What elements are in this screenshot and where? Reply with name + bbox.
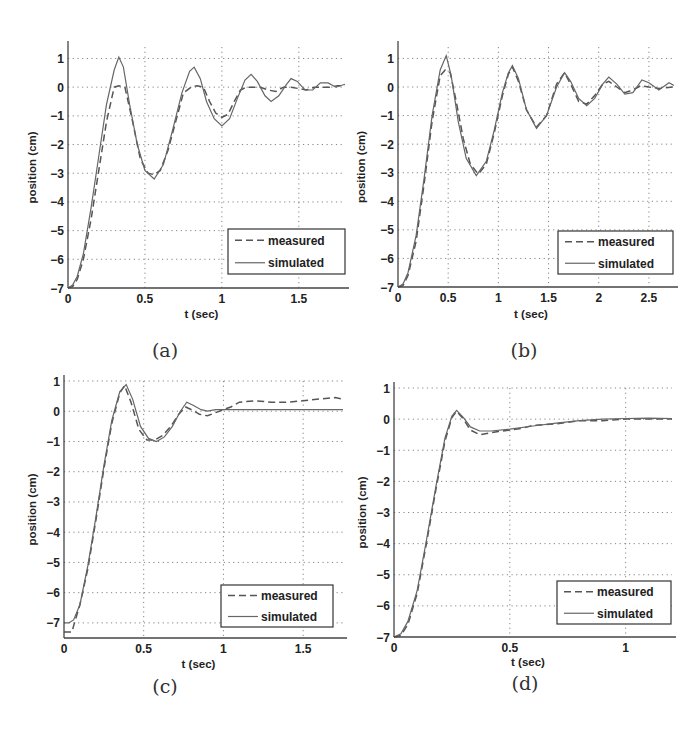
y-tick-label: 1: [57, 52, 64, 66]
x-tick-label: 1.5: [290, 292, 307, 306]
y-tick-label: −7: [46, 616, 60, 630]
legend-entry-label: simulated: [261, 610, 317, 624]
y-tick-label: −3: [380, 166, 394, 180]
y-tick-label: −1: [376, 444, 390, 458]
legend-entry-label: simulated: [598, 257, 654, 271]
y-axis-label: position (cm): [26, 473, 38, 545]
y-tick-label: −5: [376, 568, 390, 582]
y-tick-label: −4: [376, 537, 390, 551]
y-tick-label: −5: [46, 556, 60, 570]
y-tick-label: −2: [376, 475, 390, 489]
x-tick-label: 0.5: [135, 642, 152, 656]
y-tick-label: 0: [57, 81, 64, 95]
legend-entry-label: measured: [597, 585, 654, 599]
y-tick-label: −7: [380, 281, 394, 295]
legend: measuredsimulated: [558, 231, 673, 274]
panel-caption: (a): [152, 339, 178, 361]
x-tick-label: 0.5: [440, 291, 457, 305]
y-tick-label: −3: [46, 495, 60, 509]
panel-d: 10−1−2−3−4−5−6−700.51t (sec)position (cm…: [356, 382, 676, 695]
panel-caption: (d): [512, 672, 539, 694]
x-tick-label: 1: [622, 641, 629, 655]
y-tick-label: −3: [50, 167, 64, 181]
y-tick-label: −1: [380, 109, 394, 123]
legend-entry-label: simulated: [597, 607, 653, 621]
x-tick-label: 0.5: [137, 292, 154, 306]
y-tick-label: −7: [50, 282, 64, 296]
legend-entry-label: measured: [598, 235, 655, 249]
panel-a: 10−1−2−3−4−5−6−700.511.5t (sec)position …: [26, 41, 349, 361]
legend: measuredsimulated: [221, 585, 333, 627]
y-tick-label: −5: [50, 224, 64, 238]
x-tick-label: 1.5: [540, 291, 557, 305]
x-tick-label: 0: [61, 642, 68, 656]
y-tick-label: 1: [383, 382, 390, 396]
y-tick-label: −1: [50, 109, 64, 123]
x-tick-label: 0.5: [501, 641, 518, 655]
y-tick-label: 0: [387, 81, 394, 95]
y-tick-label: −2: [380, 138, 394, 152]
y-tick-label: −2: [50, 138, 64, 152]
y-tick-label: 1: [53, 375, 60, 389]
y-tick-label: −6: [376, 599, 390, 613]
y-tick-label: −4: [380, 195, 394, 209]
x-tick-label: 0: [395, 291, 402, 305]
legend: measuredsimulated: [557, 581, 671, 624]
y-tick-label: −6: [50, 253, 64, 267]
panel-c: 10−1−2−3−4−5−6−700.511.5t (sec)position …: [26, 375, 347, 698]
x-tick-label: 0: [391, 641, 398, 655]
y-tick-label: −6: [46, 586, 60, 600]
y-axis-label: position (cm): [356, 476, 368, 548]
y-axis-label: position (cm): [355, 131, 367, 203]
legend-entry-label: simulated: [268, 256, 324, 270]
x-axis-label: t (sec): [514, 308, 548, 320]
panel-caption: (c): [152, 675, 177, 697]
y-tick-label: −4: [50, 195, 64, 209]
x-tick-label: 1: [495, 291, 502, 305]
legend-entry-label: measured: [268, 234, 325, 248]
figure: 10−1−2−3−4−5−6−700.511.5t (sec)position …: [0, 0, 698, 732]
y-tick-label: 0: [383, 413, 390, 427]
x-tick-label: 1.5: [295, 642, 312, 656]
y-tick-label: −4: [46, 526, 60, 540]
y-tick-label: 0: [53, 405, 60, 419]
y-tick-label: −1: [46, 435, 60, 449]
y-tick-label: 1: [387, 52, 394, 66]
x-tick-label: 1: [219, 292, 226, 306]
y-tick-label: −2: [46, 465, 60, 479]
x-tick-label: 0: [65, 292, 72, 306]
x-axis-label: t (sec): [182, 658, 216, 670]
y-tick-label: −5: [380, 223, 394, 237]
y-tick-label: −7: [376, 631, 390, 645]
legend-entry-label: measured: [261, 589, 318, 603]
x-tick-label: 2: [595, 291, 602, 305]
y-tick-label: −3: [376, 506, 390, 520]
y-tick-label: −6: [380, 252, 394, 266]
x-tick-label: 1: [220, 642, 227, 656]
panel-b: 10−1−2−3−4−5−6−700.511.522.5t (sec)posit…: [355, 41, 678, 361]
panel-caption: (b): [511, 339, 538, 361]
x-tick-label: 2.5: [641, 291, 658, 305]
x-axis-label: t (sec): [511, 656, 545, 668]
y-axis-label: position (cm): [26, 131, 38, 203]
legend: measuredsimulated: [228, 229, 345, 274]
x-axis-label: t (sec): [185, 308, 219, 320]
